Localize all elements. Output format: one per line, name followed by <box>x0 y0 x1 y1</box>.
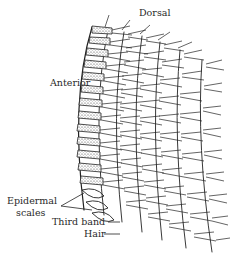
scale-diagram: Dorsal Anterior Epidermal scales Third b… <box>0 0 242 255</box>
label-hair: Hair <box>84 229 106 239</box>
label-third-band: Third band <box>52 217 105 227</box>
label-anterior: Anterior <box>50 78 90 88</box>
stippled-scales <box>77 26 112 185</box>
label-dorsal: Dorsal <box>139 8 170 18</box>
label-epidermal: Epidermal <box>7 196 57 206</box>
hairs <box>100 15 230 241</box>
label-scales: scales <box>16 208 45 218</box>
